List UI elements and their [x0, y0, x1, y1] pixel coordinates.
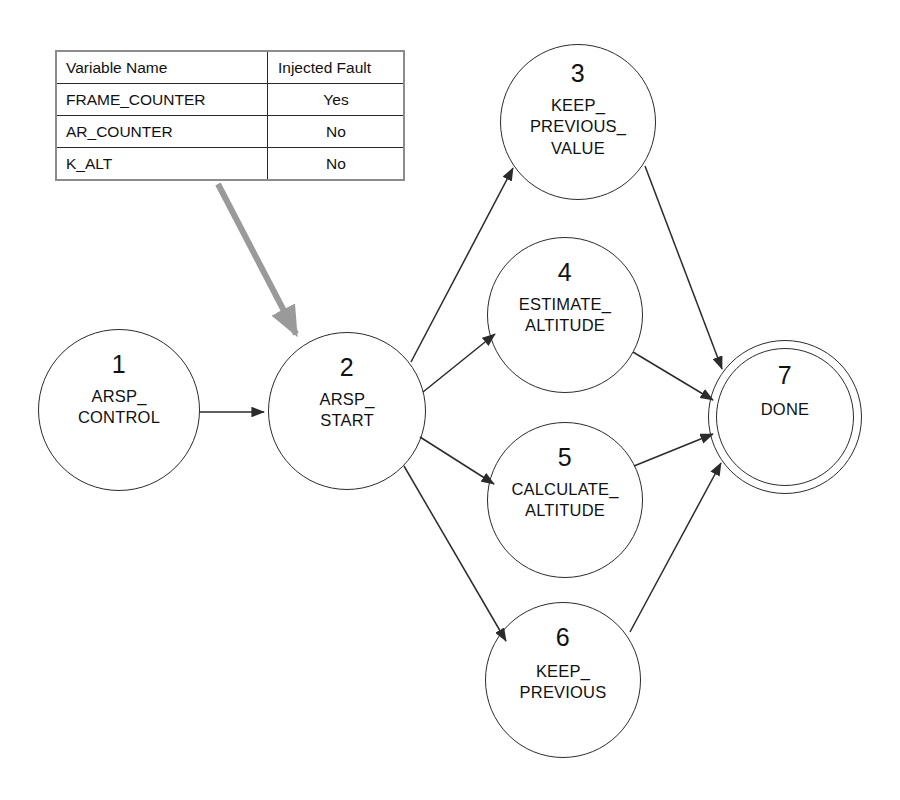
state-node-2[interactable]: 2ARSP_ START — [268, 332, 426, 490]
fsm-diagram-canvas: Variable Name Injected Fault FRAME_COUNT… — [0, 0, 900, 800]
table-row: K_ALT No — [57, 148, 403, 180]
annotation-group — [218, 184, 296, 334]
state-label-2: ARSP_ START — [319, 389, 374, 432]
edge-4-to-7 — [633, 352, 713, 400]
edge-6-to-7 — [630, 463, 721, 632]
state-label-5: CALCULATE_ ALTITUDE — [511, 479, 618, 522]
edge-2-to-5 — [420, 437, 494, 484]
state-id-1: 1 — [112, 352, 126, 377]
state-node-1[interactable]: 1ARSP_ CONTROL — [38, 329, 200, 491]
table-row: FRAME_COUNTER Yes — [57, 84, 403, 116]
state-node-3[interactable]: 3KEEP_ PREVIOUS_ VALUE — [500, 44, 656, 200]
state-node-7[interactable]: 7DONE — [708, 340, 862, 494]
state-label-3: KEEP_ PREVIOUS_ VALUE — [530, 95, 626, 159]
cell-injected-fault: No — [268, 116, 404, 148]
variable-fault-table: Variable Name Injected Fault FRAME_COUNT… — [55, 50, 405, 181]
cell-variable-name: AR_COUNTER — [57, 116, 268, 148]
cell-injected-fault: No — [268, 148, 404, 180]
state-label-7: DONE — [761, 399, 809, 420]
edge-3-to-7 — [645, 166, 722, 369]
state-id-2: 2 — [340, 355, 354, 380]
cell-injected-fault: Yes — [268, 84, 404, 116]
state-label-4: ESTIMATE_ ALTITUDE — [519, 294, 611, 337]
cell-variable-name: FRAME_COUNTER — [57, 84, 268, 116]
edge-5-to-7 — [634, 434, 713, 466]
fault-table-to-state2-arrow — [218, 184, 296, 334]
state-label-1: ARSP_ CONTROL — [78, 386, 160, 429]
state-id-4: 4 — [558, 260, 572, 285]
state-label-6: KEEP_ PREVIOUS — [520, 661, 607, 704]
edge-2-to-4 — [423, 334, 495, 392]
header-variable-name: Variable Name — [57, 52, 268, 84]
table-header-row: Variable Name Injected Fault — [57, 52, 403, 84]
state-node-4[interactable]: 4ESTIMATE_ ALTITUDE — [487, 237, 643, 393]
table-row: AR_COUNTER No — [57, 116, 403, 148]
state-id-5: 5 — [558, 445, 572, 470]
fault-table-grid: Variable Name Injected Fault FRAME_COUNT… — [57, 52, 403, 179]
state-id-7: 7 — [778, 363, 792, 388]
cell-variable-name: K_ALT — [57, 148, 268, 180]
state-node-5[interactable]: 5CALCULATE_ ALTITUDE — [487, 422, 643, 578]
header-injected-fault: Injected Fault — [268, 52, 404, 84]
state-id-3: 3 — [571, 61, 585, 86]
state-node-6[interactable]: 6KEEP_ PREVIOUS — [485, 602, 641, 758]
state-id-6: 6 — [556, 625, 570, 650]
